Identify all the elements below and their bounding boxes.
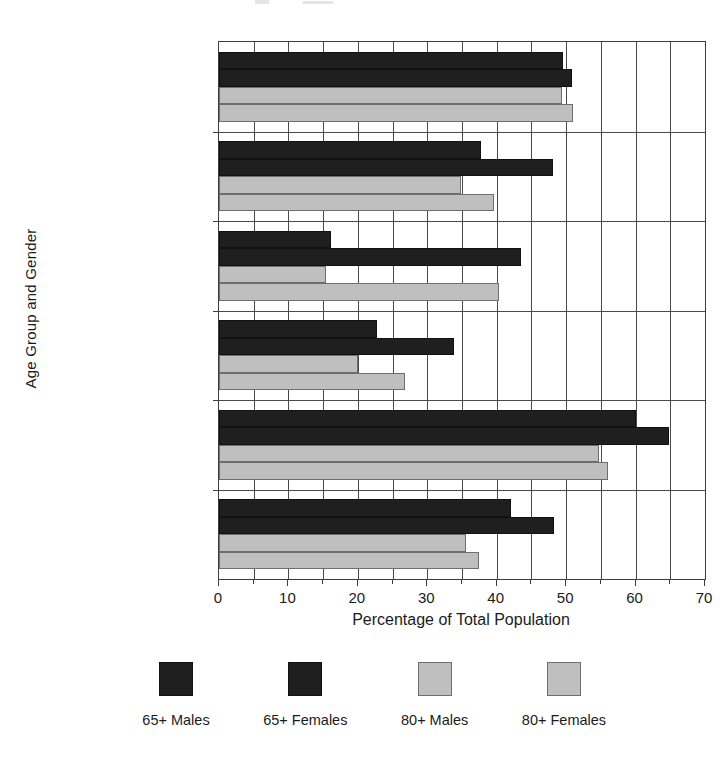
- bar: [219, 427, 669, 445]
- x-axis-tick-major: [426, 579, 427, 586]
- x-axis-tick-major: [704, 579, 705, 586]
- bar: [219, 445, 599, 463]
- y-axis-tick: [213, 311, 219, 312]
- y-axis-tick: [213, 221, 219, 222]
- y-axis-tick: [213, 132, 219, 133]
- legend-label: 80+ Females: [522, 712, 606, 728]
- x-axis-tick-label: 60: [615, 589, 655, 606]
- bar: [219, 141, 481, 159]
- x-axis-tick-label: 40: [476, 589, 516, 606]
- x-axis-tick-label: 20: [337, 589, 377, 606]
- y-axis-tick: [213, 490, 219, 491]
- x-axis-tick-major: [635, 579, 636, 586]
- legend-swatch: [418, 662, 452, 696]
- plot-area: Watch televisionListen to radioTalk on p…: [218, 41, 706, 580]
- x-axis-tick-label: 30: [406, 589, 446, 606]
- legend-item: 65+ Males: [120, 662, 232, 742]
- x-axis-tick-label: 50: [545, 589, 585, 606]
- scan-artifact: [245, 0, 395, 6]
- bar: [219, 320, 377, 338]
- legend: 65+ Males65+ Females80+ Males80+ Females: [120, 662, 620, 742]
- legend-swatch: [547, 662, 581, 696]
- x-axis-tick-minor: [669, 579, 670, 584]
- y-axis-tick: [213, 400, 219, 401]
- legend-item: 80+ Females: [508, 662, 620, 742]
- bar: [219, 266, 326, 284]
- y-axis-title: Age Group and Gender: [22, 159, 39, 459]
- category-group: [219, 400, 705, 490]
- x-axis-title: Percentage of Total Population: [218, 611, 704, 629]
- bar: [219, 52, 563, 70]
- x-axis-tick-minor: [461, 579, 462, 584]
- bar: [219, 283, 499, 301]
- legend-swatch: [288, 662, 322, 696]
- category-group: [219, 42, 705, 132]
- legend-item: 65+ Females: [249, 662, 361, 742]
- bar: [219, 248, 521, 266]
- x-axis-tick-minor: [530, 579, 531, 584]
- x-axis-tick-minor: [253, 579, 254, 584]
- bar: [219, 69, 572, 87]
- category-group: [219, 311, 705, 401]
- bar: [219, 104, 573, 122]
- bar: [219, 87, 562, 105]
- x-axis-tick-major: [287, 579, 288, 586]
- x-axis-tick-major: [357, 579, 358, 586]
- bar: [219, 338, 454, 356]
- bar: [219, 517, 554, 535]
- bar: [219, 355, 358, 373]
- category-group: [219, 132, 705, 222]
- x-axis-tick-label: 0: [198, 589, 238, 606]
- x-axis-tick-minor: [322, 579, 323, 584]
- legend-label: 80+ Males: [401, 712, 468, 728]
- x-axis-tick-major: [565, 579, 566, 586]
- bar: [219, 552, 479, 570]
- bar: [219, 373, 405, 391]
- legend-swatch: [159, 662, 193, 696]
- bar: [219, 194, 494, 212]
- category-group: [219, 221, 705, 311]
- x-axis-tick-minor: [600, 579, 601, 584]
- bar: [219, 159, 553, 177]
- legend-label: 65+ Males: [142, 712, 209, 728]
- bar: [219, 462, 608, 480]
- bar: [219, 534, 466, 552]
- x-axis-tick-label: 70: [684, 589, 724, 606]
- bar: [219, 176, 461, 194]
- legend-item: 80+ Males: [379, 662, 491, 742]
- legend-label: 65+ Females: [263, 712, 347, 728]
- x-axis-tick-major: [218, 579, 219, 586]
- bar: [219, 231, 331, 249]
- bar: [219, 410, 636, 428]
- category-group: [219, 490, 705, 580]
- bar-chart-figure: Age Group and Gender Watch televisionLis…: [0, 0, 724, 758]
- x-axis-tick-major: [496, 579, 497, 586]
- bar: [219, 499, 511, 517]
- x-axis-tick-minor: [392, 579, 393, 584]
- x-axis-tick-label: 10: [267, 589, 307, 606]
